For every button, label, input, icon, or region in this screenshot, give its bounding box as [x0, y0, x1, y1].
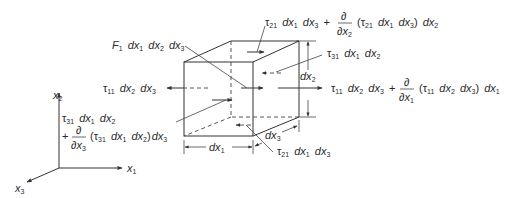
label-tau31-front-partial-num: ∂ — [76, 124, 82, 136]
label-axis-x1: x1 — [126, 162, 137, 175]
stress-element-diagram: F1 dx1 dx2 dx3 τ21 dx1 dx3 + ∂ ∂x2 (τ21 … — [0, 0, 514, 198]
label-tau11-right-partial-num: ∂ — [404, 76, 410, 88]
label-axis-x2: x2 — [52, 89, 63, 102]
label-tau21-top-partial-num: ∂ — [341, 10, 347, 22]
label-tau21-top-rest: (τ21 dx1 dx3) dx2 — [357, 16, 438, 30]
label-tau11-right-partial-den: ∂x1 — [399, 91, 414, 104]
cube-top-edges — [184, 41, 299, 62]
label-tau31-front-rest: (τ31 dx1 dx2)dx3 — [90, 130, 167, 144]
label-axis-x3: x3 — [14, 182, 25, 195]
label-dim-dx3: dx3 — [265, 129, 281, 142]
label-dim-dx1: dx1 — [209, 141, 225, 154]
label-tau31-front-line1: τ31 dx1 dx2 — [62, 112, 115, 126]
label-tau31-back: τ31 dx1 dx2 — [327, 47, 380, 61]
label-tau31-front-partial-den: ∂x3 — [71, 139, 86, 152]
label-tau11-right-rest: (τ11 dx2 dx3) dx1 — [419, 82, 500, 96]
axis-x3 — [27, 168, 59, 182]
label-body-force: F1 dx1 dx2 dx3 — [112, 39, 185, 53]
leader-body-force — [185, 46, 247, 88]
label-dim-dx2: dx2 — [300, 70, 316, 83]
leader-tau21-top — [257, 26, 265, 52]
label-tau21-bottom: τ21 dx1 dx3 — [277, 145, 330, 159]
dim-dx3-line-lower — [255, 143, 262, 146]
label-tau11-left: τ11 dx2 dx3 — [103, 82, 156, 96]
label-tau21-top-partial-den: ∂x2 — [337, 25, 352, 38]
label-tau21-top: τ21 dx1 dx3 + — [265, 16, 330, 30]
dim-dx3-line — [282, 126, 297, 132]
label-tau31-front-plus: + — [62, 130, 68, 142]
label-tau11-right: τ11 dx2 dx3 + — [331, 82, 395, 96]
